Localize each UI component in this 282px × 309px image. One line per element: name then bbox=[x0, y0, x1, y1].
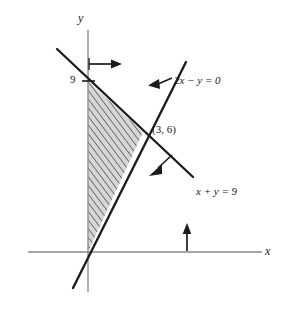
figure-container: y x 9 2x − y = 0 x + y = 9 (3, 6) bbox=[0, 0, 282, 309]
constraint-arrow-line-x-plus-y bbox=[149, 155, 172, 176]
constraint-arrow-y-nonnegative bbox=[183, 223, 192, 251]
intersection-point-label: (3, 6) bbox=[152, 124, 176, 135]
constraint-arrow-x-nonnegative bbox=[89, 58, 122, 70]
graph-canvas bbox=[0, 0, 282, 309]
y-axis-label: y bbox=[78, 12, 83, 24]
line-2x-minus-y-label: 2x − y = 0 bbox=[174, 75, 221, 86]
line-x-plus-y-label: x + y = 9 bbox=[196, 186, 237, 197]
constraint-arrow-line-2x-minus-y bbox=[148, 78, 172, 89]
x-axis-label: x bbox=[265, 245, 270, 257]
y-intercept-label: 9 bbox=[70, 74, 76, 85]
